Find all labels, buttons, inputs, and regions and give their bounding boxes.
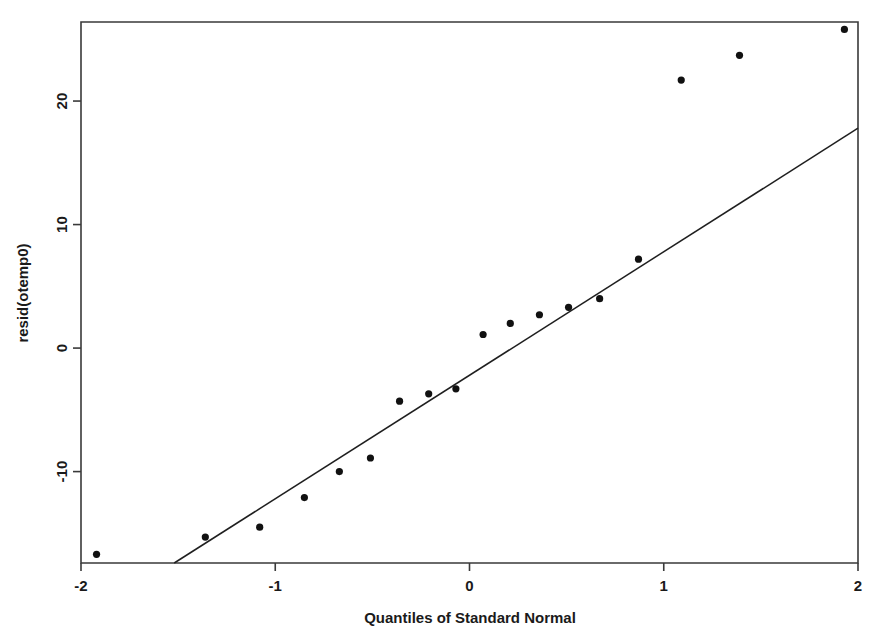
data-point: [678, 76, 685, 83]
y-tick-label: 20: [53, 93, 70, 110]
data-point: [425, 390, 432, 397]
data-point: [256, 524, 263, 531]
plot-canvas: -2-1012 -1001020 Quantiles of Standard N…: [0, 0, 876, 640]
x-tick-label: 2: [854, 577, 862, 594]
data-point: [336, 468, 343, 475]
data-point: [367, 454, 374, 461]
y-axis-title: resid(otemp0): [14, 243, 31, 342]
data-point: [565, 304, 572, 311]
data-point: [202, 533, 209, 540]
data-point: [596, 295, 603, 302]
data-point: [396, 398, 403, 405]
y-tick-label: 10: [53, 216, 70, 233]
data-point: [479, 331, 486, 338]
x-tick-label: -2: [74, 577, 87, 594]
data-point: [301, 494, 308, 501]
y-tick-label: 0: [53, 344, 70, 352]
data-point: [841, 26, 848, 33]
x-axis-title: Quantiles of Standard Normal: [364, 609, 576, 626]
data-point: [93, 551, 100, 558]
qq-plot-figure: -2-1012 -1001020 Quantiles of Standard N…: [0, 0, 876, 640]
x-tick-label: -1: [269, 577, 282, 594]
figure-background: [0, 0, 876, 640]
data-point: [507, 320, 514, 327]
data-point: [736, 52, 743, 59]
data-point: [452, 385, 459, 392]
y-tick-label: -10: [53, 461, 70, 483]
data-point: [536, 311, 543, 318]
x-tick-label: 0: [465, 577, 473, 594]
data-point: [635, 256, 642, 263]
x-tick-label: 1: [660, 577, 668, 594]
